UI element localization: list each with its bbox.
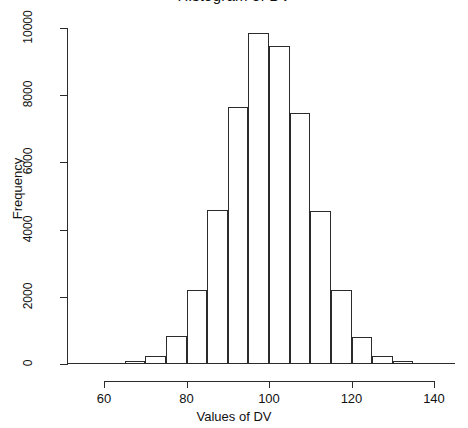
x-axis-tick	[269, 381, 270, 388]
x-axis-tick	[352, 381, 353, 388]
histogram-bar	[393, 361, 414, 364]
histogram-bar	[104, 363, 125, 364]
histogram-bar	[145, 356, 166, 364]
plot-area	[67, 28, 434, 364]
histogram-bar	[83, 363, 104, 364]
y-axis-tick-label: 2000	[21, 268, 35, 324]
histogram-bar	[352, 337, 373, 364]
y-axis-tick	[60, 162, 67, 163]
histogram-bar	[331, 290, 352, 364]
x-axis-tick	[104, 381, 105, 388]
y-axis-tick	[60, 28, 67, 29]
y-axis-title: Frequency	[10, 109, 25, 269]
histogram-bar	[310, 211, 331, 364]
y-axis-tick	[60, 297, 67, 298]
x-axis-tick-label: 100	[249, 391, 289, 406]
histogram-bar	[248, 33, 269, 364]
y-axis-tick-label: 10000	[21, 0, 35, 55]
y-axis-tick	[60, 95, 67, 96]
x-axis-tick-label: 80	[167, 391, 207, 406]
histogram-bar	[269, 46, 290, 364]
x-axis-title: Values of DV	[0, 409, 468, 424]
x-axis-tick-label: 140	[414, 391, 454, 406]
histogram-bar	[228, 107, 249, 364]
histogram-bar	[372, 356, 393, 364]
x-axis-tick-label: 60	[84, 391, 124, 406]
histogram-bar	[434, 363, 455, 364]
histogram-figure: Histogram of DV 0200040006000800010000 F…	[0, 0, 468, 428]
y-axis-tick-label: 0	[21, 335, 35, 391]
histogram-bar	[290, 113, 311, 364]
x-axis-tick	[434, 381, 435, 388]
y-axis-tick	[60, 230, 67, 231]
histogram-bar	[166, 336, 187, 364]
y-axis-line	[67, 28, 68, 365]
histogram-bar	[125, 361, 146, 364]
histogram-bar	[187, 290, 208, 364]
y-axis-tick	[60, 364, 67, 365]
chart-title: Histogram of DV	[0, 0, 468, 4]
x-axis-tick	[187, 381, 188, 388]
x-axis-tick-label: 120	[332, 391, 372, 406]
histogram-bar	[413, 363, 434, 364]
histogram-bar	[207, 210, 228, 364]
